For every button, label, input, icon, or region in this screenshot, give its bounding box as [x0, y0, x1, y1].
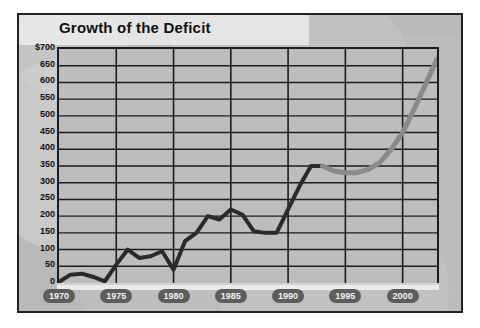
- y-axis-labels: $700650600550500450400350300250200150100…: [19, 47, 55, 285]
- plot-inner: [59, 49, 437, 283]
- y-axis-tick-label: 300: [21, 177, 55, 186]
- chart-figure: Growth of the Deficit $70065060055050045…: [0, 0, 480, 328]
- y-axis-tick-label: 550: [21, 93, 55, 102]
- y-axis-tick-label: 50: [21, 260, 55, 269]
- y-axis-tick-label: 600: [21, 76, 55, 85]
- y-axis-tick-label: 400: [21, 143, 55, 152]
- y-axis-tick-label: $700: [21, 43, 55, 52]
- data-series-line: [59, 166, 322, 282]
- y-axis-tick-label: 100: [21, 244, 55, 253]
- x-axis-tick-label: 1985: [215, 289, 247, 303]
- y-axis-tick-label: 350: [21, 160, 55, 169]
- y-axis-tick-label: 450: [21, 127, 55, 136]
- x-axis-tick-label: 1970: [43, 289, 75, 303]
- y-axis-tick-label: 0: [21, 277, 55, 286]
- chart-title: Growth of the Deficit: [59, 19, 211, 36]
- x-axis-labels: 1970197519801985199019952000: [19, 287, 463, 309]
- x-axis-tick-label: 1975: [100, 289, 132, 303]
- y-axis-tick-label: 500: [21, 110, 55, 119]
- y-axis-tick-label: 150: [21, 227, 55, 236]
- chart-panel: Growth of the Deficit $70065060055050045…: [17, 13, 463, 313]
- data-series-line: [322, 59, 437, 173]
- x-axis-tick-label: 2000: [387, 289, 419, 303]
- x-axis-tick-label: 1980: [158, 289, 190, 303]
- data-layer: [59, 49, 437, 283]
- y-axis-tick-label: 250: [21, 193, 55, 202]
- x-axis-tick-label: 1990: [272, 289, 304, 303]
- x-axis-tick-label: 1995: [329, 289, 361, 303]
- y-axis-tick-label: 200: [21, 210, 55, 219]
- plot-area: [57, 47, 439, 285]
- y-axis-tick-label: 650: [21, 60, 55, 69]
